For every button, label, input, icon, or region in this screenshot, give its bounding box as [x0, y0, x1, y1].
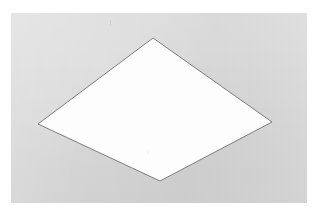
rhombus-figure [0, 0, 319, 215]
page-margin-bottom [0, 203, 319, 215]
rhombus-shape [38, 38, 272, 181]
page-margin-top [0, 0, 319, 13]
figure-page [0, 0, 319, 215]
page-margin-right [307, 0, 319, 215]
page-margin-left [0, 0, 11, 215]
